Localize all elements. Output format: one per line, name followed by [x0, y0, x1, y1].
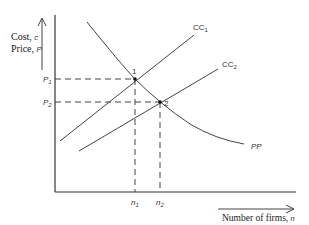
y-axis-label-cost: Cost, c: [11, 31, 38, 42]
cc1-line: [60, 35, 194, 141]
equilibrium-point-1: [133, 77, 137, 81]
x-axis-label: Number of firms, n: [222, 213, 295, 223]
point-1-label: 1: [132, 67, 137, 76]
n1-tick-label: n1: [131, 198, 139, 208]
cc2-label: CC2: [222, 60, 238, 70]
pp-curve: [87, 22, 244, 144]
point-2-label: 2: [164, 99, 169, 108]
equilibrium-point-2: [158, 100, 162, 104]
p2-tick-label: P2: [43, 98, 52, 108]
p1-tick-label: P1: [43, 75, 52, 85]
y-axis-label-price: Price, P: [11, 43, 43, 54]
cc1-label: CC1: [193, 23, 209, 33]
pp-label: PP: [251, 142, 262, 151]
diagram-canvas: Cost, c Price, P Number of firms, n PP C…: [0, 0, 309, 225]
n2-tick-label: n2: [156, 198, 164, 208]
